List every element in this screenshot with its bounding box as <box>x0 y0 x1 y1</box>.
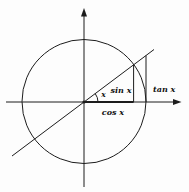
x-axis-arrowhead-icon <box>173 99 182 105</box>
sin-label: sin x <box>111 85 132 95</box>
cos-label: cos x <box>102 107 124 117</box>
y-axis-arrowhead-icon <box>81 8 87 17</box>
trig-unit-circle-diagram: x sin x cos x tan x <box>0 0 189 192</box>
tan-label: tan x <box>153 84 175 94</box>
angle-arc <box>95 94 98 102</box>
trig-diagram-canvas: x sin x cos x tan x <box>0 0 189 192</box>
angle-label: x <box>100 90 106 99</box>
origin-dot <box>82 100 85 103</box>
